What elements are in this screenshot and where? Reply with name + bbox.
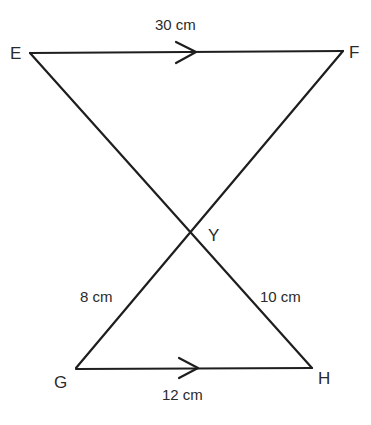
measurement-gy: 8 cm bbox=[80, 288, 113, 305]
measurement-gh: 12 cm bbox=[162, 386, 203, 403]
point-label-f: F bbox=[349, 43, 359, 62]
segment-ef bbox=[30, 51, 343, 53]
segment-fg bbox=[76, 51, 343, 368]
measurement-ef: 30 cm bbox=[155, 16, 196, 33]
segment-eh bbox=[30, 53, 312, 368]
geometry-diagram: E F Y G H 30 cm 12 cm 8 cm 10 cm bbox=[0, 0, 371, 425]
measurement-yh: 10 cm bbox=[260, 288, 301, 305]
point-label-g: G bbox=[54, 373, 67, 392]
point-label-h: H bbox=[318, 369, 330, 388]
point-label-y: Y bbox=[208, 226, 219, 245]
point-label-e: E bbox=[10, 44, 21, 63]
segment-gh bbox=[76, 368, 312, 369]
